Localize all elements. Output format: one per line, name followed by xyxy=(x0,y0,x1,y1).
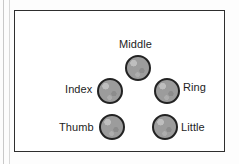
scan-artifact-line xyxy=(3,0,4,164)
node-label-ring: Ring xyxy=(183,81,206,93)
node-little xyxy=(152,114,178,140)
node-label-middle: Middle xyxy=(119,38,152,50)
node-label-little: Little xyxy=(181,121,205,133)
node-middle xyxy=(125,55,151,81)
node-thumb xyxy=(99,114,125,140)
finger-layout-figure: Middle Index Ring Thumb Little xyxy=(0,0,239,164)
node-index xyxy=(97,78,123,104)
diagram-frame: Middle Index Ring Thumb Little xyxy=(14,10,225,152)
scan-artifact-line xyxy=(9,0,10,164)
node-ring xyxy=(154,78,180,104)
node-label-thumb: Thumb xyxy=(59,121,94,133)
node-label-index: Index xyxy=(65,83,92,95)
